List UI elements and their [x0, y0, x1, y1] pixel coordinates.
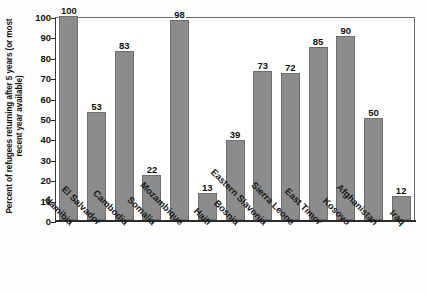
y-tick-mark-70 [51, 79, 56, 80]
bar [364, 118, 383, 220]
bar-value-label: 12 [395, 185, 408, 196]
y-tick-mark-50 [51, 120, 56, 121]
bar-value-label: 90 [339, 25, 352, 36]
bar-value-label: 13 [201, 182, 214, 193]
y-tick-label-90: 90 [40, 32, 51, 43]
y-tick-mark-60 [51, 100, 56, 101]
y-tick-label-50: 50 [40, 114, 51, 125]
y-tick-label-30: 30 [40, 154, 51, 165]
bar-value-label: 39 [229, 129, 242, 140]
y-tick-mark-100 [51, 18, 56, 19]
bar [170, 20, 189, 220]
y-tick-mark-40 [51, 140, 56, 141]
y-tick-mark-30 [51, 161, 56, 162]
y-tick-label-70: 70 [40, 73, 51, 84]
bar-value-label: 100 [60, 5, 78, 16]
y-tick-mark-90 [51, 38, 56, 39]
bar-value-label: 98 [173, 9, 186, 20]
y-tick-mark-20 [51, 181, 56, 182]
y-tick-mark-80 [51, 59, 56, 60]
y-tick-label-60: 60 [40, 93, 51, 104]
bar-value-label: 85 [312, 36, 325, 47]
y-axis-tick-labels: 0102030405060708090100 [26, 0, 54, 294]
bar-value-label: 83 [118, 40, 131, 51]
bar-value-label: 73 [256, 60, 269, 71]
bar-value-label: 22 [146, 164, 159, 175]
y-tick-label-80: 80 [40, 52, 51, 63]
bar-value-label: 50 [367, 107, 380, 118]
y-tick-mark-0 [51, 222, 56, 223]
y-tick-label-40: 40 [40, 134, 51, 145]
y-tick-label-100: 100 [35, 12, 51, 23]
y-tick-label-20: 20 [40, 175, 51, 186]
bar-value-label: 53 [90, 101, 103, 112]
bar-value-label: 72 [284, 62, 297, 73]
x-axis-category-labels: NamibiaEl SalvadorCambodiaSomaliaMozambi… [55, 224, 427, 294]
bar-chart-figure: Percent of refugees returning after 5 ye… [0, 0, 427, 294]
bar [309, 47, 328, 220]
y-tick-label-0: 0 [46, 216, 51, 227]
